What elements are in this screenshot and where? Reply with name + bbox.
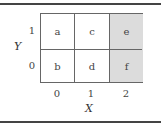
cell-b: b: [41, 50, 74, 83]
cell-label: a: [55, 26, 61, 37]
cell-label: d: [89, 61, 95, 72]
cell-e: e: [110, 14, 143, 49]
cell-c: c: [75, 14, 109, 49]
cell-label: f: [125, 61, 129, 72]
cell-label: e: [124, 26, 130, 37]
cell-label: b: [54, 61, 60, 72]
cell-label: c: [89, 26, 95, 37]
bottom-rule: [0, 121, 161, 123]
x-tick-2: 2: [121, 88, 131, 99]
top-rule: [0, 3, 161, 5]
x-tick-0: 0: [52, 88, 62, 99]
y-tick-0: 0: [28, 60, 36, 71]
x-axis-label: X: [85, 102, 93, 115]
cell-f: f: [110, 50, 143, 83]
x-tick-1: 1: [86, 88, 96, 99]
y-tick-1: 1: [28, 25, 36, 36]
grid: a c e b d f: [40, 13, 143, 83]
y-axis-label: Y: [14, 40, 21, 53]
cell-d: d: [75, 50, 109, 83]
cell-a: a: [41, 14, 74, 49]
